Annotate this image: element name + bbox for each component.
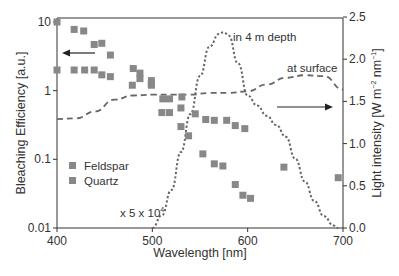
annotation-depth: in 4 m depth — [233, 31, 296, 43]
data-point-quartz — [247, 195, 254, 202]
y2-tick-label: 0.5 — [349, 179, 366, 193]
y-axis-title: Bleaching Efficiency [a.u.] — [14, 52, 28, 195]
y2-tick-label: 2.0 — [349, 52, 366, 66]
data-point-feldspar — [80, 27, 87, 34]
y-ticks: 0.010.1110 — [28, 15, 57, 235]
data-point-feldspar — [136, 75, 143, 82]
data-point-quartz — [98, 71, 105, 78]
y-tick-label: 0.1 — [34, 152, 51, 166]
data-point-quartz — [91, 66, 98, 73]
y-tick-label: 0.01 — [28, 221, 52, 235]
data-point-quartz — [239, 192, 246, 199]
y-tick-label: 10 — [38, 15, 52, 29]
plot-frame — [57, 18, 343, 228]
data-point-quartz — [158, 109, 165, 116]
legend: Feldspar Quartz — [69, 160, 129, 187]
data-point-quartz — [107, 73, 114, 80]
y2-axis-title: Light intensity [W m−2 nm−1] — [370, 48, 384, 197]
data-point-quartz — [280, 164, 287, 171]
legend-marker-feldspar — [69, 162, 76, 169]
left-arrow-icon — [62, 50, 95, 57]
data-point-feldspar — [177, 104, 184, 111]
y2-tick-label: 1.0 — [349, 137, 366, 151]
y2-tick-label: 2.5 — [349, 10, 366, 24]
data-point-quartz — [177, 123, 184, 130]
x-tick-label: 700 — [333, 234, 353, 248]
x-tick-label: 400 — [47, 234, 67, 248]
data-point-feldspar — [232, 122, 239, 129]
annotation-scale: x 5 x 104 — [120, 206, 164, 219]
data-point-feldspar — [241, 125, 248, 132]
right-arrow-icon — [277, 104, 333, 111]
legend-marker-quartz — [69, 177, 76, 184]
y2-tick-label: 1.5 — [349, 94, 366, 108]
data-point-feldspar — [91, 41, 98, 48]
data-point-quartz — [148, 81, 155, 88]
annotation-surface: at surface — [287, 62, 338, 74]
data-point-feldspar — [54, 19, 61, 26]
legend-label-quartz: Quartz — [84, 175, 119, 187]
y-tick-label: 1 — [44, 84, 51, 98]
chart-svg: 400500600700 0.010.1110 0.00.51.01.52.02… — [0, 0, 399, 276]
data-point-feldspar — [192, 110, 199, 117]
data-point-feldspar — [107, 52, 114, 59]
data-point-quartz — [129, 82, 136, 89]
surface-curve — [57, 75, 343, 119]
data-point-feldspar — [98, 40, 105, 47]
data-point-feldspar — [223, 117, 230, 124]
y2-tick-label: 0.0 — [349, 221, 366, 235]
data-point-feldspar — [159, 95, 166, 102]
data-point-quartz — [81, 66, 88, 73]
legend-label-feldspar: Feldspar — [84, 160, 129, 172]
data-point-feldspar — [71, 26, 78, 33]
x-axis-title: Wavelength [nm] — [153, 246, 246, 260]
data-point-quartz — [71, 66, 78, 73]
data-point-feldspar — [130, 65, 137, 72]
data-point-feldspar — [178, 93, 185, 100]
data-point-quartz — [219, 162, 226, 169]
data-point-quartz — [335, 174, 342, 181]
data-point-quartz — [211, 160, 218, 167]
data-point-quartz — [232, 181, 239, 188]
x-ticks: 400500600700 — [47, 228, 353, 248]
data-point-feldspar — [202, 116, 209, 123]
data-point-feldspar — [166, 95, 173, 102]
data-point-quartz — [54, 66, 61, 73]
data-point-quartz — [185, 132, 192, 139]
y2-ticks: 0.00.51.01.52.02.5 — [343, 10, 366, 235]
data-point-feldspar — [211, 117, 218, 124]
data-point-quartz — [199, 150, 206, 157]
data-point-quartz — [166, 109, 173, 116]
